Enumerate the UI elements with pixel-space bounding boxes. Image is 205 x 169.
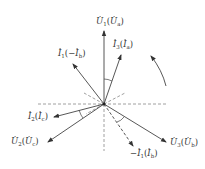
label-neg-i1-alt: I: [147, 149, 150, 158]
label-i1-close: ): [82, 48, 85, 58]
label-i1-open: (−: [65, 48, 75, 58]
origin-point: [103, 103, 106, 106]
label-neg-i1: −I1(Ib): [130, 149, 158, 159]
label-i3-alt: I: [123, 40, 126, 49]
label-i3: I3(Ia): [113, 40, 133, 50]
label-u3-close: ): [195, 137, 198, 147]
label-u2: U2(Uc): [11, 137, 39, 147]
label-i1-alt: I: [75, 49, 78, 58]
angle-arc-i2-u2: [79, 110, 83, 118]
label-u1: U1(Ua): [96, 17, 124, 27]
label-i3-close: ): [130, 39, 133, 49]
phasor-neg-i1: [104, 104, 133, 146]
label-u2-main: U: [11, 137, 18, 146]
phasor-u2: [48, 104, 104, 142]
angle-arc-u3-neg-i1: [117, 117, 124, 122]
label-i1-main: I: [58, 49, 61, 58]
label-i2-close: ): [45, 111, 48, 121]
label-i2: I2(Ic): [28, 112, 48, 122]
label-u1-alt: U: [110, 17, 117, 26]
label-neg-i1-main: I: [137, 149, 140, 158]
label-u2-alt: U: [25, 137, 32, 146]
phasor-i1: [73, 64, 104, 104]
label-u1-close: ): [120, 16, 123, 26]
label-i3-main: I: [113, 40, 116, 49]
phasor-u3: [104, 104, 166, 142]
label-i1: I1(−Ib): [58, 49, 86, 59]
dashed-diagonal-upper-left: [84, 93, 104, 104]
label-u3-alt: U: [184, 138, 191, 147]
label-u3: U3(Ub): [170, 138, 198, 148]
label-i2-alt: I: [38, 112, 41, 121]
rotation-direction-arrow: [151, 56, 166, 86]
angle-arc-u1-i3: [104, 79, 112, 81]
label-neg-i1-close: ): [154, 148, 157, 158]
reference-axes: [38, 93, 168, 151]
label-u3-main: U: [170, 138, 177, 147]
label-i2-main: I: [28, 112, 31, 121]
label-u2-close: ): [35, 136, 38, 146]
label-u1-main: U: [96, 17, 103, 26]
